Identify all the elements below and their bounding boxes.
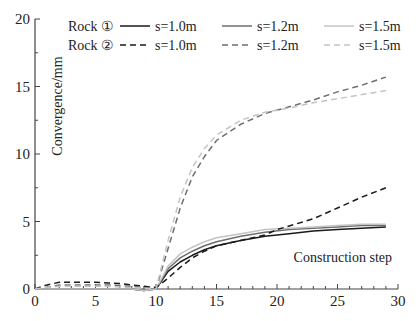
legend-label: s=1.0m: [155, 19, 197, 34]
y-tick-label: 20: [15, 11, 30, 27]
legend-label: s=1.0m: [155, 38, 197, 53]
legend-group-label-rock2: Rock ②: [68, 38, 114, 53]
x-tick-label: 10: [149, 293, 164, 309]
x-tick-label: 0: [31, 293, 39, 309]
legend-label: s=1.2m: [257, 19, 299, 34]
convergence-chart: 05101520253005101520 Convergence/mm Cons…: [0, 0, 416, 321]
y-tick-label: 10: [15, 146, 30, 162]
legend: Rock ① Rock ② s=1.0ms=1.2ms=1.5ms=1.0ms=…: [68, 19, 401, 53]
legend-label: s=1.2m: [257, 38, 299, 53]
x-tick-label: 5: [92, 293, 100, 309]
axes: [35, 19, 398, 289]
x-axis-title: Construction step: [294, 250, 392, 265]
legend-label: s=1.5m: [359, 38, 401, 53]
y-tick-label: 15: [15, 79, 30, 95]
y-tick-label: 0: [23, 281, 31, 297]
y-axis-title: Convergence/mm: [50, 56, 65, 155]
x-tick-label: 15: [209, 293, 224, 309]
y-tick-label: 5: [23, 214, 31, 230]
legend-entries: s=1.0ms=1.2ms=1.5ms=1.0ms=1.2ms=1.5m: [120, 19, 401, 53]
series-line-rock2-s10m: [35, 188, 386, 289]
x-tick-label: 30: [391, 293, 406, 309]
legend-label: s=1.5m: [359, 19, 401, 34]
x-tick-label: 20: [270, 293, 285, 309]
x-tick-label: 25: [330, 293, 345, 309]
legend-group-label-rock1: Rock ①: [68, 19, 114, 34]
